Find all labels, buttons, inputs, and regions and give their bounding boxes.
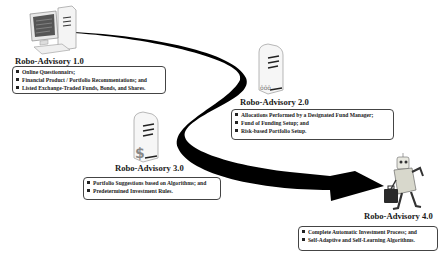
- stage-3-item: Predetermined Investment Rules.: [87, 187, 217, 195]
- stage-box-3: Portfolio Suggestions based on Algorithm…: [83, 177, 221, 200]
- stage-box-2: Allocations Performed by a Designated Fu…: [231, 109, 394, 140]
- stage-1-item: Listed Exchange-Traded Funds, Bonds, and…: [16, 84, 162, 92]
- stage-4-item: Self-Adaptive and Self-Learning Algorith…: [302, 236, 434, 244]
- robo-advisory-evolution-diagram: ôôô $ Robo-Advisory 1.0 Online Questionn…: [0, 0, 443, 263]
- stage-1-item: Online Questionnairs;: [16, 68, 162, 76]
- stage-title-4: Robo-Advisory 4.0: [364, 211, 433, 221]
- stage-4-item: Complete Automatic Investment Process; a…: [302, 228, 434, 236]
- stage-title-1: Robo-Advisory 1.0: [15, 56, 84, 66]
- stage-3-item: Portfolio Suggestions based on Algorithm…: [87, 179, 217, 187]
- stage-1-item: Financial Product / Portfolio Recommenta…: [16, 76, 162, 84]
- stage-2-item: Fund of Funding Setup; and: [235, 119, 390, 127]
- stage-title-2: Robo-Advisory 2.0: [240, 97, 309, 107]
- stage-title-3: Robo-Advisory 3.0: [115, 163, 184, 173]
- stage-2-item: Allocations Performed by a Designated Fu…: [235, 111, 390, 119]
- stage-box-4: Complete Automatic Investment Process; a…: [298, 226, 438, 251]
- stage-2-item: Risk-based Portfolio Setup.: [235, 127, 390, 135]
- stage-box-1: Online Questionnairs; Financial Product …: [12, 66, 166, 94]
